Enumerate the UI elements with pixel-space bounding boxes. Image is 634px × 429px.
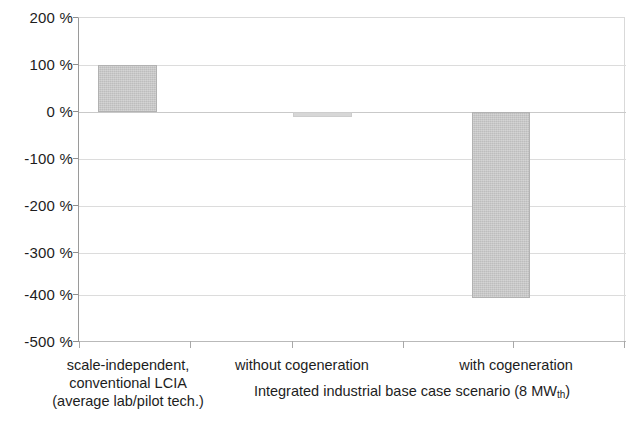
category-label-with-cogeneration: with cogeneration (436, 356, 596, 374)
gridline-100 (79, 65, 626, 66)
gridline-neg100 (79, 159, 626, 160)
x-axis-caption: Integrated industrial base case scenario… (216, 382, 608, 402)
bar-scale-independent[interactable] (98, 65, 157, 112)
gridline-zero (79, 112, 626, 113)
y-axis-tick-label: -200 % (24, 198, 73, 213)
category-label-without-cogeneration: without cogeneration (222, 356, 382, 374)
gridline-neg300 (79, 253, 626, 254)
category-label-line: conventional LCIA (22, 374, 234, 392)
y-axis-tick-label: 200 % (29, 10, 73, 25)
category-label-line: (average lab/pilot tech.) (22, 392, 234, 410)
x-axis-caption-prefix: Integrated industrial base case scenario… (254, 383, 557, 399)
bar-chart: 200 % 100 % 0 % -100 % -200 % -300 % -40… (0, 0, 634, 429)
y-axis-tick-label: -400 % (24, 287, 73, 302)
y-axis-tick-label: -100 % (24, 151, 73, 166)
bar-with-cogeneration[interactable] (472, 112, 530, 298)
y-axis-tick-label: 100 % (29, 57, 73, 72)
x-axis-tick-mark (190, 341, 191, 348)
x-axis-tick-mark (624, 341, 625, 348)
y-axis-tick-label: -500 % (24, 334, 73, 349)
bar-without-cogeneration[interactable] (293, 112, 352, 117)
gridline-neg500 (79, 341, 626, 342)
x-axis-caption-subscript: th (557, 389, 565, 400)
y-axis-tick-label: 0 % (47, 104, 73, 119)
category-label-scale-independent: scale-independent, conventional LCIA (av… (22, 356, 234, 410)
x-axis-tick-mark (403, 341, 404, 348)
x-axis-caption-suffix: ) (565, 383, 570, 399)
plot-area (78, 17, 625, 341)
y-axis-tick-label: -300 % (24, 245, 73, 260)
x-axis-tick-mark (513, 341, 514, 348)
x-axis-tick-mark (79, 341, 80, 348)
x-axis-tick-mark (292, 341, 293, 348)
category-label-line: scale-independent, (22, 356, 234, 374)
gridline-neg400 (79, 295, 626, 296)
gridline-neg200 (79, 206, 626, 207)
